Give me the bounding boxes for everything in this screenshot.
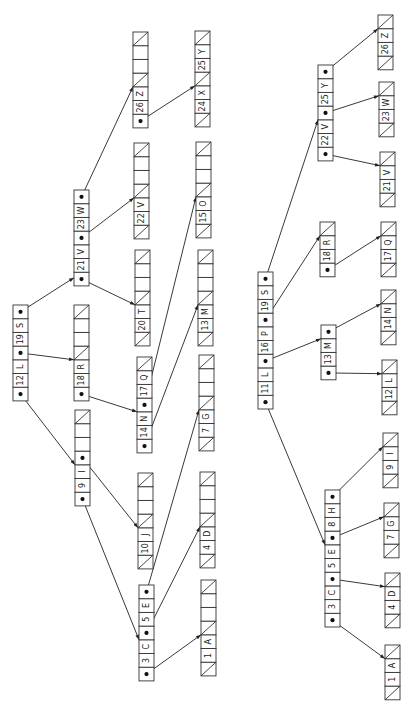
btree-node: 9I bbox=[383, 433, 398, 488]
nodes-layer: 12L19S21V23W18R9I26Z22V20T14N17Q10J3C5E2… bbox=[13, 15, 400, 700]
pointer-dot bbox=[18, 310, 22, 314]
cell-label: N bbox=[140, 416, 149, 422]
node-cell bbox=[138, 487, 153, 501]
cell-label: 19 bbox=[261, 301, 270, 311]
arrowhead-icon bbox=[69, 278, 74, 282]
cell-label: V bbox=[77, 248, 86, 254]
cell-label: 21 bbox=[77, 260, 86, 270]
arrowhead-icon bbox=[132, 409, 137, 412]
child-pointer-arrow bbox=[147, 635, 202, 674]
cell-label: X bbox=[198, 89, 207, 95]
cell-label: 4 bbox=[388, 605, 397, 610]
node-cell bbox=[201, 607, 216, 621]
cell-label: 15 bbox=[199, 212, 208, 222]
pointer-dot bbox=[142, 444, 146, 448]
cell-label: 24 bbox=[198, 101, 207, 111]
cell-label: G bbox=[202, 414, 211, 420]
cell-label: J bbox=[141, 533, 150, 536]
pointer-dot bbox=[263, 359, 267, 363]
arrowhead-icon bbox=[135, 634, 139, 639]
pointer-dot bbox=[79, 277, 83, 281]
child-pointer-arrow bbox=[266, 339, 322, 361]
btree-node: 7G bbox=[384, 503, 399, 558]
right-tree: 11L16P19S22V25Y18R13M3C5E8H26Z23W21V17Q1… bbox=[258, 15, 400, 700]
cell-label: Q bbox=[384, 239, 393, 245]
cell-label: 12 bbox=[385, 389, 394, 399]
cell-label: 14 bbox=[384, 319, 393, 329]
cell-label: D bbox=[388, 590, 397, 596]
node-cell bbox=[134, 170, 149, 184]
node-cell bbox=[196, 169, 211, 183]
node-cell bbox=[135, 264, 150, 278]
pointer-dot bbox=[144, 631, 148, 635]
arrowhead-icon bbox=[377, 372, 382, 376]
node-cell bbox=[198, 264, 213, 278]
cell-label: L bbox=[261, 372, 270, 377]
cell-label: 10 bbox=[141, 543, 150, 553]
cell-label: Z bbox=[381, 32, 390, 38]
btree-node: 1A bbox=[385, 645, 400, 700]
child-pointer-arrow bbox=[83, 499, 140, 640]
arrowhead-icon bbox=[196, 527, 200, 532]
btree-node: 23W bbox=[379, 82, 394, 137]
cell-label: L bbox=[385, 378, 394, 383]
cell-label: A bbox=[204, 638, 213, 644]
btree-node: 3C5E bbox=[139, 585, 154, 681]
child-pointer-arrow bbox=[266, 120, 319, 279]
btree-node: 3C5E8H bbox=[325, 490, 340, 627]
cell-label: 7 bbox=[387, 535, 396, 540]
btree-node: 21V bbox=[380, 152, 395, 207]
cell-label: 23 bbox=[77, 219, 86, 229]
child-pointer-arrow bbox=[83, 458, 139, 528]
btree-node: 13M bbox=[198, 250, 213, 346]
btree-node: 4D bbox=[200, 472, 215, 568]
node-cell bbox=[138, 500, 153, 514]
pointer-dot bbox=[323, 70, 327, 74]
cell-label: 23 bbox=[382, 111, 391, 121]
btree-node: 4D bbox=[385, 573, 400, 628]
pointer-dot bbox=[330, 536, 334, 540]
child-pointer-arrow bbox=[145, 305, 199, 446]
node-cell bbox=[75, 437, 90, 451]
cell-label: 11 bbox=[261, 383, 270, 393]
cell-label: 14 bbox=[140, 427, 149, 437]
pointer-dot bbox=[80, 456, 84, 460]
child-pointer-arrow bbox=[329, 373, 383, 374]
child-pointer-arrow bbox=[326, 154, 381, 166]
btree-node: 1A bbox=[201, 580, 216, 676]
btree-node: 18R bbox=[74, 305, 89, 401]
cell-label: 12 bbox=[16, 375, 25, 385]
arrowhead-icon bbox=[316, 236, 320, 241]
pointer-dot bbox=[144, 672, 148, 676]
btree-node: 11L16P19S bbox=[258, 272, 273, 409]
cell-label: 19 bbox=[16, 334, 25, 344]
cell-label: Y bbox=[321, 83, 330, 89]
btree-node: 20T bbox=[135, 250, 150, 346]
cell-label: 9 bbox=[78, 483, 87, 488]
cell-label: 5 bbox=[328, 563, 337, 568]
btree-node: 9I bbox=[75, 410, 90, 506]
cell-label: H bbox=[328, 508, 337, 514]
cell-label: 25 bbox=[198, 60, 207, 70]
cell-label: 7 bbox=[202, 428, 211, 433]
pointer-dot bbox=[79, 392, 83, 396]
child-pointer-arrow bbox=[82, 87, 134, 197]
pointer-dot bbox=[263, 277, 267, 281]
cell-label: D bbox=[203, 531, 212, 537]
cell-label: M bbox=[201, 308, 210, 315]
node-cell bbox=[200, 499, 215, 513]
pointer-dot bbox=[326, 330, 330, 334]
child-pointer-arrow bbox=[266, 402, 326, 545]
btree-node: 13M bbox=[321, 325, 336, 380]
child-pointer-arrow bbox=[333, 447, 384, 497]
cell-label: 1 bbox=[204, 653, 213, 658]
cell-label: Z bbox=[136, 90, 145, 96]
node-cell bbox=[201, 594, 216, 608]
cell-label: I bbox=[78, 470, 87, 472]
btree-node: 14N bbox=[381, 290, 396, 345]
arrowhead-icon bbox=[69, 357, 74, 361]
cell-label: L bbox=[16, 364, 25, 369]
pointer-dot bbox=[18, 392, 22, 396]
pointer-dot bbox=[142, 403, 146, 407]
cell-label: O bbox=[199, 201, 208, 207]
